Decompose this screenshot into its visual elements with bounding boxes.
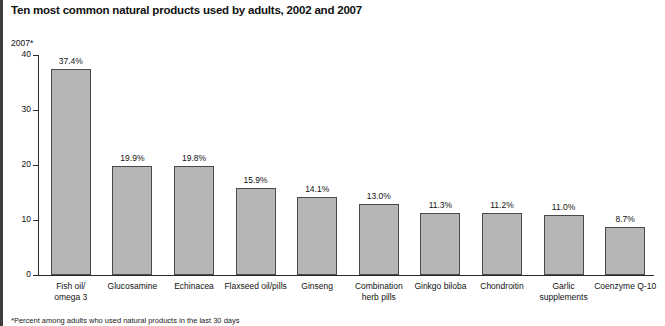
bar-group[interactable]: 19.8%Echinacea bbox=[174, 55, 214, 275]
bar-group[interactable]: 37.4%Fish oil/ omega 3 bbox=[51, 55, 91, 275]
bar[interactable] bbox=[51, 69, 91, 275]
bar-group[interactable]: 19.9%Glucosamine bbox=[112, 55, 152, 275]
chart-page: Ten most common natural products used by… bbox=[0, 0, 665, 326]
y-axis-tick-label: 20 bbox=[22, 159, 31, 169]
bar[interactable] bbox=[236, 188, 276, 275]
bar-group[interactable]: 15.9%Flaxseed oil/pills bbox=[236, 55, 276, 275]
bar-value-label: 13.0% bbox=[367, 191, 391, 201]
bar-group[interactable]: 8.7%Coenzyme Q-10 bbox=[605, 55, 645, 275]
bar-value-label: 14.1% bbox=[305, 184, 329, 194]
y-axis-tick-label: 0 bbox=[26, 269, 31, 279]
bar-value-label: 8.7% bbox=[616, 214, 635, 224]
y-axis-tick-mark bbox=[33, 220, 39, 221]
bar[interactable] bbox=[420, 213, 460, 275]
page-title: Ten most common natural products used by… bbox=[11, 4, 362, 16]
bar-value-label: 37.4% bbox=[59, 56, 83, 66]
y-axis-unit-label: 2007* bbox=[11, 38, 33, 48]
left-edge-rule bbox=[0, 0, 3, 326]
bar-value-label: 15.9% bbox=[244, 175, 268, 185]
bar-group[interactable]: 14.1%Ginseng bbox=[297, 55, 337, 275]
bar-group[interactable]: 11.2%Chondroitin bbox=[482, 55, 522, 275]
y-axis-tick-mark bbox=[33, 110, 39, 111]
bar-value-label: 11.3% bbox=[429, 200, 452, 210]
bar-value-label: 11.0% bbox=[552, 202, 575, 212]
y-axis-tick-mark bbox=[33, 165, 39, 166]
bar-value-label: 19.8% bbox=[182, 153, 206, 163]
y-axis-tick-label: 30 bbox=[22, 104, 31, 114]
bar[interactable] bbox=[482, 213, 522, 275]
bar-group[interactable]: 13.0%Combination herb pills bbox=[359, 55, 399, 275]
bar-group[interactable]: 11.3%Ginkgo biloba bbox=[420, 55, 460, 275]
footnote: *Percent among adults who used natural p… bbox=[11, 316, 661, 325]
bar[interactable] bbox=[297, 197, 337, 275]
y-axis-tick-mark bbox=[33, 55, 39, 56]
bar[interactable] bbox=[544, 215, 584, 276]
bar[interactable] bbox=[359, 204, 399, 276]
x-axis-line bbox=[38, 275, 654, 276]
plot-area: 010203040 37.4%Fish oil/ omega 319.9%Glu… bbox=[38, 55, 654, 275]
bar-value-label: 19.9% bbox=[120, 153, 144, 163]
bar-value-label: 11.2% bbox=[490, 200, 513, 210]
y-axis-tick-label: 10 bbox=[22, 214, 31, 224]
bar[interactable] bbox=[174, 166, 214, 275]
bar-group[interactable]: 11.0%Garlic supplements bbox=[544, 55, 584, 275]
y-axis-tick-mark bbox=[33, 275, 39, 276]
bar[interactable] bbox=[112, 166, 152, 275]
bar[interactable] bbox=[605, 227, 645, 275]
x-axis-category-label: Coenzyme Q-10 bbox=[586, 281, 664, 292]
y-axis-tick-label: 40 bbox=[22, 49, 31, 59]
